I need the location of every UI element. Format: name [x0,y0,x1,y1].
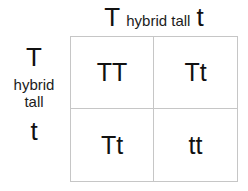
punnett-cell-bottom-left: Tt [71,109,154,181]
top-allele-left: T [104,4,120,30]
punnett-cell-bottom-right: tt [154,109,237,181]
left-allele-top: T [26,44,42,70]
top-axis-label: T hybrid tall t [70,0,238,34]
punnett-cell-top-right: Tt [154,37,237,109]
left-axis-label: T hybrid tall t [0,44,68,154]
left-trait-line-2: tall [24,93,43,110]
top-allele-right: t [196,4,203,30]
punnett-grid: TT Tt Tt tt [70,36,238,182]
left-trait-line-1: hybrid [14,76,55,93]
top-trait-label: hybrid tall [126,13,190,28]
punnett-square-figure: T hybrid tall t T hybrid tall t TT Tt Tt… [0,0,248,191]
punnett-cell-top-left: TT [71,37,154,109]
left-allele-bottom: t [30,118,37,144]
